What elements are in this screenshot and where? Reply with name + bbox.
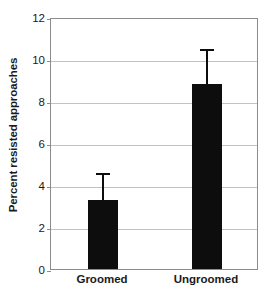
gridline [51,229,257,230]
x-tick-label: Groomed [76,273,127,285]
x-tick-label: Ungroomed [174,273,239,285]
error-bar-cap [200,49,214,51]
y-tick-mark [47,271,51,272]
gridline [51,103,257,104]
bar-chart-figure: Percent resisted approaches 024681012 Gr… [0,0,271,296]
y-tick-mark [47,145,51,146]
gridline [51,187,257,188]
gridline [51,61,257,62]
y-axis-title: Percent resisted approaches [0,0,26,270]
y-tick-mark [47,229,51,230]
y-tick-mark [47,19,51,20]
y-tick-mark [47,103,51,104]
y-axis-title-text: Percent resisted approaches [7,58,19,213]
y-tick-label: 2 [39,222,45,234]
y-tick-label: 6 [39,138,45,150]
error-bar-cap [96,173,110,175]
x-axis-tick-labels: GroomedUngroomed [50,273,258,293]
y-tick-label: 10 [32,54,45,66]
error-bar-line [206,49,208,92]
plot-frame [50,18,258,270]
y-tick-label: 0 [39,264,45,276]
plot-area [51,19,257,269]
bar [88,200,118,269]
y-tick-label: 8 [39,96,45,108]
bar [192,84,222,269]
error-bar-line [102,173,104,207]
y-tick-mark [47,61,51,62]
y-tick-label: 12 [32,12,45,24]
y-axis-tick-labels: 024681012 [26,18,48,270]
y-tick-label: 4 [39,180,45,192]
gridline [51,145,257,146]
y-tick-mark [47,187,51,188]
